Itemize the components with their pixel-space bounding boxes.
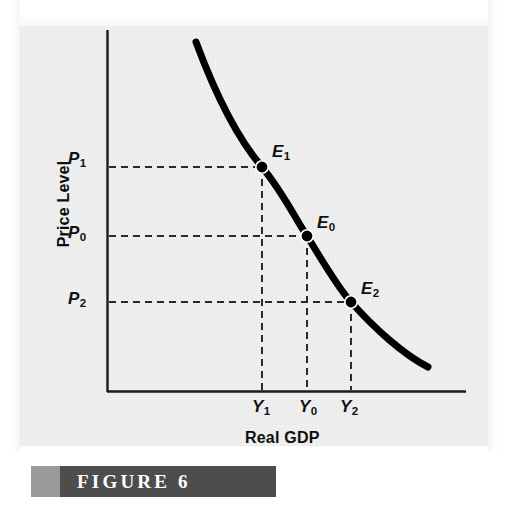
y-tick-sub-p1: 1 <box>80 157 86 169</box>
point-base-e2: E <box>361 279 372 298</box>
equilibrium-point-e1 <box>256 161 268 173</box>
page-edge-fade-top <box>0 0 506 26</box>
y-tick-label-p1: P1 <box>68 150 86 169</box>
x-tick-label-y2: Y2 <box>340 398 358 417</box>
point-base-e0: E <box>317 213 328 232</box>
y-tick-base-p2: P <box>68 289 79 308</box>
figure-caption-text: FIGURE 6 <box>77 471 191 493</box>
x-tick-label-y0: Y0 <box>299 398 317 417</box>
figure-container: Price Level Real GDP P1 P0 P2 Y1 Y0 Y2 E… <box>0 0 506 505</box>
x-tick-sub-y1: 1 <box>264 405 270 417</box>
figure-banner-body: FIGURE 6 <box>60 466 276 497</box>
point-base-e1: E <box>272 142 283 161</box>
equilibrium-point-e2 <box>345 296 357 308</box>
point-label-e0: E0 <box>317 214 335 233</box>
x-tick-label-y1: Y1 <box>252 398 270 417</box>
x-tick-base-y0: Y <box>299 397 310 416</box>
point-sub-e1: 1 <box>284 150 290 162</box>
page-edge-fade-right <box>488 0 506 452</box>
point-sub-e2: 2 <box>373 287 379 299</box>
x-tick-base-y2: Y <box>340 397 351 416</box>
point-sub-e0: 0 <box>329 221 335 233</box>
x-tick-sub-y2: 2 <box>352 405 358 417</box>
figure-banner-tab <box>31 466 60 497</box>
y-tick-label-p2: P2 <box>68 290 86 309</box>
y-tick-sub-p0: 0 <box>80 231 86 243</box>
y-tick-label-p0: P0 <box>68 224 86 243</box>
y-tick-sub-p2: 2 <box>80 297 86 309</box>
y-tick-base-p1: P <box>68 149 79 168</box>
figure-caption-banner: FIGURE 6 <box>31 466 276 497</box>
x-tick-sub-y0: 0 <box>311 405 317 417</box>
equilibrium-point-e0 <box>301 230 313 242</box>
point-label-e1: E1 <box>272 143 290 162</box>
page-edge-fade-left <box>0 0 20 452</box>
x-tick-base-y1: Y <box>252 397 263 416</box>
x-axis-title: Real GDP <box>245 430 320 446</box>
point-label-e2: E2 <box>361 280 379 299</box>
y-tick-base-p0: P <box>68 223 79 242</box>
aggregate-demand-curve <box>196 42 428 367</box>
